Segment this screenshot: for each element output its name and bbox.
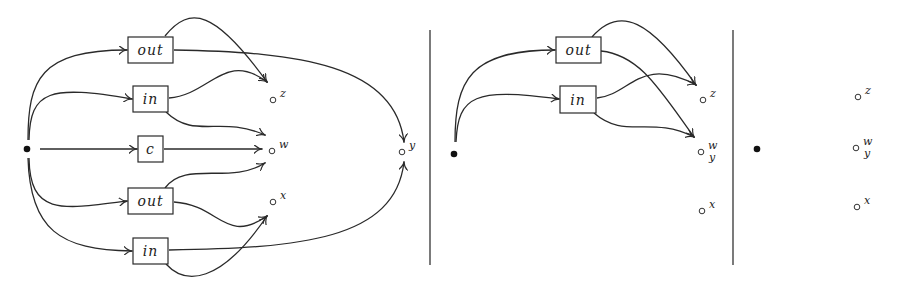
- edge-source-to-in: [456, 94, 559, 142]
- edge-in-top-to-z: [169, 71, 267, 98]
- box-label: out: [137, 193, 163, 209]
- box-in: in: [560, 86, 596, 113]
- box-c: c: [138, 136, 163, 162]
- node-z: z: [855, 84, 871, 100]
- edge-out-top-to-y: [174, 50, 404, 142]
- node-label: x: [280, 189, 287, 202]
- box-label: in: [143, 91, 159, 107]
- source-dot: [24, 146, 31, 153]
- node-label: y: [408, 139, 416, 152]
- node-label: x: [864, 194, 871, 207]
- edge-out-to-z: [592, 21, 696, 85]
- box-label: in: [143, 243, 159, 259]
- edge-source-to-in-bottom: [28, 158, 132, 251]
- edge-out-bottom-to-x: [174, 202, 267, 226]
- node-label-bottom: y: [708, 151, 716, 164]
- node-y: y: [399, 139, 416, 155]
- edge-source-to-out-top: [28, 50, 127, 140]
- diagram-canvas: out in c out in z w x: [0, 0, 899, 289]
- box-label: c: [146, 141, 155, 157]
- node-x: x: [699, 198, 716, 214]
- node-label: w: [279, 138, 289, 151]
- edge-in-to-z: [597, 74, 696, 98]
- box-in-bottom: in: [133, 238, 168, 264]
- edge-source-to-out-bottom: [29, 158, 127, 207]
- panel-1: out in c out in z w x: [24, 18, 416, 276]
- edge-in-bottom-to-y: [169, 162, 404, 250]
- node-label: x: [709, 198, 716, 211]
- node-z: z: [700, 87, 716, 103]
- node-label-bottom: y: [863, 147, 871, 160]
- box-out-top: out: [128, 37, 173, 63]
- edge-source-to-in-top: [29, 92, 132, 140]
- box-out: out: [556, 37, 601, 63]
- box-label: out: [137, 42, 163, 58]
- node-wy: w y: [853, 135, 873, 160]
- node-x: x: [854, 194, 871, 210]
- node-label: z: [709, 87, 716, 100]
- edge-out-bottom-to-w: [165, 163, 265, 188]
- edge-in-bottom-to-x: [166, 216, 267, 276]
- node-z: z: [270, 87, 286, 103]
- node-x: x: [270, 189, 287, 205]
- node-wy: w y: [698, 139, 718, 164]
- edge-in-top-to-w: [166, 112, 265, 135]
- box-label: out: [565, 42, 591, 58]
- source-dot: [451, 151, 458, 158]
- node-w: w: [269, 138, 289, 154]
- edge-source-to-out: [455, 50, 555, 142]
- panel-2: out in z w y x: [451, 21, 718, 214]
- box-in-top: in: [133, 86, 168, 112]
- node-label: z: [279, 87, 286, 100]
- box-label: in: [570, 92, 586, 108]
- source-dot: [754, 146, 761, 153]
- panel-3: z w y x: [754, 84, 873, 210]
- box-out-bottom: out: [128, 188, 173, 214]
- node-label: z: [864, 84, 871, 97]
